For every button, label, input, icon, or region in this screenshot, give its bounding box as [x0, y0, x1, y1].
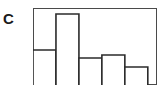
panel-label: C [3, 9, 23, 29]
histogram-bar [125, 67, 148, 85]
bar-group [33, 14, 148, 85]
plot-area [33, 8, 157, 85]
histogram-bar [56, 14, 79, 85]
figure-panel-c: C [0, 0, 161, 94]
histogram-bar [79, 58, 102, 85]
histogram-bar [102, 55, 125, 85]
histogram-bar [33, 50, 56, 85]
histogram-bars [33, 8, 157, 85]
